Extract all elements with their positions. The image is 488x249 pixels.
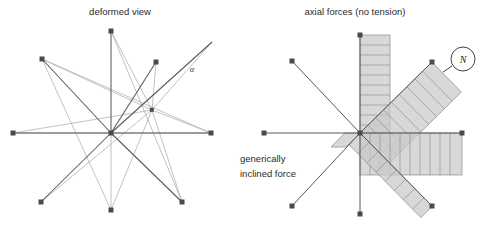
node-marker [460,131,465,136]
secondary-hub-node-marker [150,108,154,112]
alpha-angle-label: α [190,64,195,74]
node-marker [358,33,363,38]
axial-force-callout-label: N [459,54,468,65]
hub-node-marker [358,131,363,136]
node-marker [262,131,267,136]
node-marker [209,131,214,136]
panel-title-axial-forces: axial forces (no tension) [305,6,406,17]
node-marker [290,204,295,209]
node-marker [430,60,435,65]
node-marker [11,131,16,136]
node-marker [290,59,295,64]
node-marker [109,208,114,213]
panel-title-deformed-view: deformed view [89,6,151,17]
node-marker [430,204,435,209]
node-marker [180,200,185,205]
inclined-force-label-line2: inclined force [240,168,296,179]
node-marker [109,29,114,34]
hub-node-marker [109,131,114,136]
node-marker [40,57,45,62]
node-marker [154,60,159,65]
structural-diagram: deformed view [0,0,488,249]
node-marker [39,200,44,205]
inclined-force-label-line1: generically [240,153,286,164]
node-marker [358,212,363,217]
